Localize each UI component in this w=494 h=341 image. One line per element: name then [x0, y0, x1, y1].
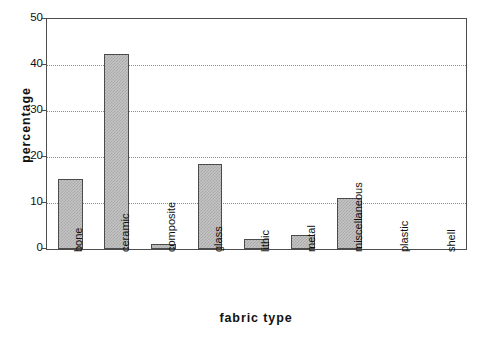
x-axis-title: fabric type	[46, 311, 466, 325]
x-tick-label-composite: composite	[166, 202, 177, 252]
x-tick-label-ceramic: ceramic	[120, 213, 131, 252]
x-tick-label-shell: shell	[446, 229, 457, 252]
x-tick-label-plastic: plastic	[399, 221, 410, 252]
x-tick-label-miscellaneous: miscellaneous	[353, 182, 364, 252]
x-tick-label-metal: metal	[306, 225, 317, 252]
x-tick-label-bone: bone	[73, 228, 84, 252]
x-tick-label-glass: glass	[213, 226, 224, 252]
y-axis-title: percentage	[19, 55, 33, 195]
y-tick-label: 0	[13, 242, 43, 254]
y-tick-label: 30	[13, 104, 43, 116]
y-tick-label: 50	[13, 12, 43, 24]
x-tick-label-lithic: lithic	[260, 230, 271, 252]
y-tick-label: 20	[13, 150, 43, 162]
plot-area	[46, 18, 467, 250]
y-tick-label: 40	[13, 58, 43, 70]
bar-chart-figure: percentage 01020304050 boneceramiccompos…	[0, 0, 494, 341]
y-tick-label: 10	[13, 196, 43, 208]
